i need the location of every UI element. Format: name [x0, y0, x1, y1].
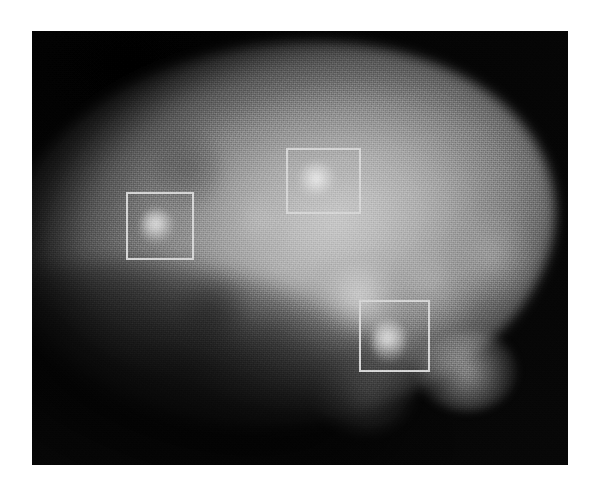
scan-image[interactable] — [32, 31, 568, 465]
film-grain-texture — [32, 31, 568, 465]
scan-viewer — [0, 0, 602, 495]
